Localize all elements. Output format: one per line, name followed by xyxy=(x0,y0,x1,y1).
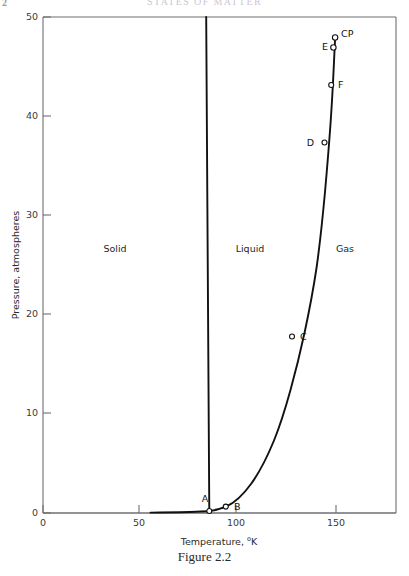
y-tick-label: 50 xyxy=(26,11,38,22)
plot-frame xyxy=(43,17,396,513)
region-label-liquid: Liquid xyxy=(236,243,265,254)
point-marker-B xyxy=(223,504,228,509)
point-label-E: E xyxy=(322,41,328,52)
x-tick-label: 50 xyxy=(133,517,145,528)
fusion-curve xyxy=(206,17,209,512)
marked-points: A B C D F E CP xyxy=(202,28,354,514)
y-tick-label: 40 xyxy=(26,110,38,121)
point-marker-CP xyxy=(332,35,337,40)
region-labels: Solid Liquid Gas xyxy=(103,243,354,254)
vapor-pressure-curve xyxy=(209,39,335,512)
x-axis-tick-labels: 0 50 100 150 xyxy=(40,517,345,528)
point-marker-C xyxy=(290,334,295,339)
phase-diagram-plot: 50 40 30 20 10 0 Pressure, atmospheres 0… xyxy=(0,0,409,576)
figure-caption: Figure 2.2 xyxy=(0,549,409,565)
x-axis-title: Temperature, oK xyxy=(180,535,258,547)
y-tick-label: 10 xyxy=(26,407,38,418)
point-label-A: A xyxy=(202,493,209,504)
x-tick-label: 0 xyxy=(40,517,46,528)
y-tick-label: 0 xyxy=(32,507,38,518)
point-label-B: B xyxy=(234,501,241,512)
point-label-D: D xyxy=(307,137,314,148)
x-axis-title-main: Temperature, xyxy=(180,536,247,547)
y-axis-tick-labels: 50 40 30 20 10 0 xyxy=(26,11,38,518)
point-label-CP: CP xyxy=(341,28,354,39)
x-axis-title-unit: K xyxy=(251,536,258,547)
sublimation-curve xyxy=(151,511,210,513)
y-tick-label: 20 xyxy=(26,308,38,319)
figure-2-2: 2 STATES OF MATTER 50 40 30 20 10 0 xyxy=(0,0,409,576)
x-tick-label: 100 xyxy=(227,517,245,528)
point-marker-F xyxy=(329,83,334,88)
point-label-F: F xyxy=(338,79,343,90)
y-axis-title: Pressure, atmospheres xyxy=(10,211,21,320)
point-marker-E xyxy=(331,45,336,50)
region-label-solid: Solid xyxy=(103,243,126,254)
y-axis-ticks xyxy=(43,17,51,513)
point-marker-A xyxy=(207,509,212,514)
point-label-C: C xyxy=(300,331,307,342)
x-tick-label: 150 xyxy=(327,517,345,528)
point-marker-D xyxy=(322,140,327,145)
y-tick-label: 30 xyxy=(26,209,38,220)
region-label-gas: Gas xyxy=(336,243,354,254)
